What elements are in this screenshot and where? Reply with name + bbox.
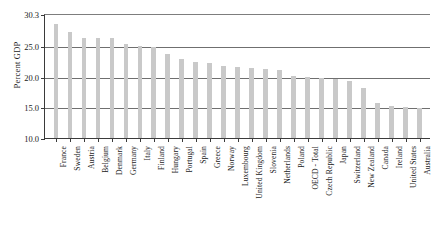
- x-axis-tick: [112, 138, 113, 142]
- bar: [389, 106, 394, 138]
- y-axis-tick-label: 15.0: [24, 103, 39, 113]
- x-axis-tick: [350, 138, 351, 142]
- bar: [68, 32, 73, 138]
- bar-fill: [249, 68, 254, 138]
- y-axis-title: Percent GDP: [12, 10, 22, 120]
- bar-fill: [165, 54, 170, 138]
- x-axis-tick: [266, 138, 267, 142]
- x-axis-tick-label: Netherlands: [283, 146, 292, 184]
- x-axis-tick: [336, 138, 337, 142]
- x-axis-tick-label: Sweden: [73, 146, 82, 171]
- bar-fill: [319, 78, 324, 138]
- x-axis-tick-label: Portugal: [185, 146, 194, 173]
- x-axis-tick: [238, 138, 239, 142]
- bar: [221, 66, 226, 138]
- bar: [151, 47, 156, 138]
- x-axis-tick-label: OECD - Total: [311, 146, 320, 190]
- x-axis-tick: [252, 138, 253, 142]
- y-axis-tick-label: 30.3: [24, 10, 39, 20]
- x-axis-tick-label: Finland: [157, 146, 166, 170]
- bar-fill: [347, 81, 352, 138]
- x-axis-tick-label: New Zealand: [367, 146, 376, 188]
- x-axis-tick-label: Austria: [87, 146, 96, 169]
- x-axis-tick-label: Australia: [423, 146, 432, 175]
- x-axis-tick-label: United States: [409, 146, 418, 188]
- bar-fill: [389, 106, 394, 138]
- x-axis-tick-label: Czech Republic: [325, 146, 334, 196]
- x-axis-tick: [70, 138, 71, 142]
- x-axis-tick-label: Greece: [213, 146, 222, 168]
- bar: [165, 54, 170, 138]
- bar-fill: [277, 70, 282, 138]
- bar-fill: [263, 69, 268, 138]
- x-axis-tick: [154, 138, 155, 142]
- bar-fill: [68, 32, 73, 138]
- bar-fill: [110, 38, 115, 138]
- x-axis-tick: [210, 138, 211, 142]
- x-axis-tick: [182, 138, 183, 142]
- bar: [417, 108, 422, 138]
- x-axis-tick-label: Switzerland: [353, 146, 362, 183]
- bar: [305, 77, 310, 138]
- bar: [207, 63, 212, 138]
- y-axis-tick-label: 20.0: [24, 73, 39, 83]
- bar-fill: [235, 67, 240, 138]
- x-axis-tick-label: Hungary: [171, 146, 180, 173]
- bar: [193, 62, 198, 138]
- x-axis-tick: [406, 138, 407, 142]
- x-axis-tick-label: Japan: [339, 146, 348, 164]
- x-axis-tick-label: Belgium: [101, 146, 110, 173]
- bar: [110, 38, 115, 138]
- bar: [54, 24, 59, 138]
- bar-fill: [193, 62, 198, 138]
- x-axis-tick: [126, 138, 127, 142]
- bar-fill: [207, 63, 212, 138]
- x-axis-tick-label: Norway: [227, 146, 236, 171]
- bar-fill: [124, 44, 129, 138]
- bar: [249, 68, 254, 138]
- bar: [82, 38, 87, 138]
- bar-chart-figure: Percent GDP 10.015.020.025.030.3 FranceS…: [0, 0, 434, 229]
- x-axis-tick: [364, 138, 365, 142]
- bar: [138, 46, 143, 138]
- bar-fill: [361, 88, 366, 138]
- x-axis-tick: [392, 138, 393, 142]
- bars-group: [44, 14, 430, 138]
- y-axis-tick-label: 10.0: [24, 134, 39, 144]
- x-axis-tick: [294, 138, 295, 142]
- bar-fill: [221, 66, 226, 138]
- bar-fill: [82, 38, 87, 138]
- bar: [319, 78, 324, 138]
- x-axis-tick: [140, 138, 141, 142]
- x-axis-tick-label: Ireland: [395, 146, 404, 168]
- bar-fill: [179, 59, 184, 138]
- bar: [333, 79, 338, 138]
- x-axis-tick-label: Denmark: [115, 146, 124, 175]
- bar-fill: [291, 76, 296, 138]
- bar: [124, 44, 129, 138]
- x-axis-tick: [280, 138, 281, 142]
- bar-fill: [54, 24, 59, 138]
- bar: [179, 59, 184, 138]
- bar-fill: [417, 108, 422, 138]
- bar-fill: [333, 79, 338, 138]
- bar: [291, 76, 296, 138]
- x-axis-tick: [420, 138, 421, 142]
- bar: [277, 70, 282, 138]
- bar-fill: [403, 107, 408, 138]
- x-axis-tick: [308, 138, 309, 142]
- bar: [347, 81, 352, 138]
- x-axis-tick: [322, 138, 323, 142]
- x-axis-tick-label: Italy: [143, 146, 152, 160]
- y-axis-tick-label: 25.0: [24, 42, 39, 52]
- bar: [235, 67, 240, 138]
- x-axis-tick: [98, 138, 99, 142]
- x-axis-tick-label: France: [59, 146, 68, 167]
- bar: [361, 88, 366, 138]
- x-axis-tick: [84, 138, 85, 142]
- bar-fill: [96, 38, 101, 138]
- bar: [96, 38, 101, 138]
- bar-fill: [138, 46, 143, 138]
- bar-fill: [305, 77, 310, 138]
- x-axis-tick-label: United Kingdom: [255, 146, 264, 199]
